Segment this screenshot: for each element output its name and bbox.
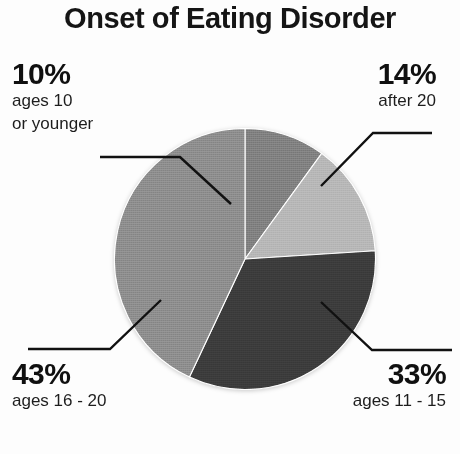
callout-desc-10-line2: or younger bbox=[12, 113, 93, 135]
callout-percent-14: 14% bbox=[378, 58, 436, 90]
callout-percent-33: 33% bbox=[353, 358, 446, 390]
pie-chart-svg bbox=[114, 128, 376, 390]
callout-percent-43: 43% bbox=[12, 358, 107, 390]
callout-desc-14-line1: after 20 bbox=[378, 90, 436, 112]
callout-desc-43-line1: ages 16 - 20 bbox=[12, 390, 107, 412]
page-title: Onset of Eating Disorder bbox=[0, 2, 460, 35]
callout-ages-10-or-younger: 10% ages 10 or younger bbox=[12, 58, 93, 135]
callout-desc-10-line1: ages 10 bbox=[12, 90, 93, 112]
callout-desc-33-line1: ages 11 - 15 bbox=[353, 390, 446, 412]
callout-ages-11-15: 33% ages 11 - 15 bbox=[353, 358, 446, 413]
eating-disorder-onset-infographic: Onset of Eating Disorder 10% ages 10 or … bbox=[0, 0, 460, 454]
callout-ages-16-20: 43% ages 16 - 20 bbox=[12, 358, 107, 413]
pie-chart bbox=[114, 128, 376, 390]
callout-percent-10: 10% bbox=[12, 58, 93, 90]
callout-after-20: 14% after 20 bbox=[378, 58, 436, 113]
